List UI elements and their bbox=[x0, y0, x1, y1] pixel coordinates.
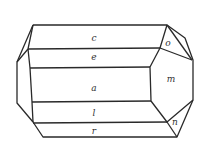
edge-a-l bbox=[32, 101, 151, 102]
label-e: e bbox=[91, 52, 96, 62]
label-r: r bbox=[92, 126, 97, 136]
label-a: a bbox=[91, 83, 96, 93]
edge-c-e bbox=[28, 48, 160, 49]
label-l: l bbox=[93, 108, 96, 118]
label-n: n bbox=[172, 117, 178, 127]
crystal-diagram: c e a l r o m n bbox=[0, 0, 206, 152]
label-o: o bbox=[165, 38, 171, 48]
edge-m-face bbox=[150, 48, 193, 122]
label-c: c bbox=[91, 33, 96, 43]
label-m: m bbox=[167, 74, 176, 84]
left-inner-vertical bbox=[28, 49, 33, 122]
edge-e-a bbox=[30, 67, 150, 68]
edge-l-r bbox=[33, 122, 167, 123]
